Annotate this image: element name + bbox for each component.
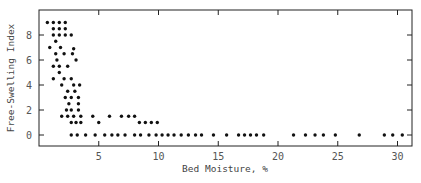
x-axis-label: Bed Moisture, % <box>182 163 268 174</box>
data-point <box>138 121 141 124</box>
data-point <box>79 115 82 118</box>
data-point <box>358 133 361 136</box>
data-point <box>46 21 49 24</box>
data-point <box>58 65 61 68</box>
y-tick-label: 4 <box>26 80 32 91</box>
data-point <box>66 65 69 68</box>
data-point <box>66 90 69 93</box>
data-point <box>65 108 68 111</box>
data-point <box>84 133 87 136</box>
data-points <box>46 21 404 137</box>
plot-frame <box>39 10 412 146</box>
data-point <box>194 133 197 136</box>
data-point <box>58 33 61 36</box>
data-point <box>154 133 157 136</box>
data-point <box>62 52 65 55</box>
data-point <box>150 121 153 124</box>
data-point <box>58 21 61 24</box>
data-point <box>66 115 69 118</box>
data-point <box>58 27 61 30</box>
data-point <box>78 83 81 86</box>
data-point <box>54 40 57 43</box>
data-point <box>334 133 337 136</box>
y-tick-label: 6 <box>26 55 32 66</box>
data-point <box>64 96 67 99</box>
data-point <box>304 133 307 136</box>
data-point <box>64 27 67 30</box>
data-point <box>70 77 73 80</box>
data-point <box>67 102 70 105</box>
data-point <box>187 133 190 136</box>
data-point <box>180 133 183 136</box>
x-tick-label: 10 <box>152 151 164 162</box>
data-point <box>120 115 123 118</box>
data-point <box>48 46 51 49</box>
data-point <box>62 77 65 80</box>
data-point <box>103 133 106 136</box>
data-point <box>313 133 316 136</box>
data-point <box>64 33 67 36</box>
data-point <box>133 115 136 118</box>
data-point <box>77 102 80 105</box>
data-point <box>108 115 111 118</box>
data-point <box>243 133 246 136</box>
data-point <box>72 47 75 50</box>
data-point <box>74 121 77 124</box>
x-axis-ticks: 51015202530 <box>96 10 404 162</box>
data-point <box>123 133 126 136</box>
data-point <box>383 133 386 136</box>
data-point <box>77 96 80 99</box>
data-point <box>58 71 61 74</box>
data-point <box>262 133 265 136</box>
data-point <box>200 133 203 136</box>
data-point <box>70 96 73 99</box>
data-point <box>237 133 240 136</box>
data-point <box>79 121 82 124</box>
data-point <box>160 133 163 136</box>
data-point <box>212 133 215 136</box>
data-point <box>172 133 175 136</box>
data-point <box>116 133 119 136</box>
data-point <box>60 83 63 86</box>
data-point <box>166 133 169 136</box>
x-tick-label: 20 <box>272 151 284 162</box>
x-tick-label: 5 <box>96 151 102 162</box>
data-point <box>110 133 113 136</box>
data-point <box>70 33 73 36</box>
data-point <box>76 133 79 136</box>
data-point <box>70 121 73 124</box>
x-tick-label: 25 <box>332 151 344 162</box>
data-point <box>59 46 62 49</box>
y-tick-label: 0 <box>26 130 32 141</box>
data-point <box>52 27 55 30</box>
data-point <box>93 133 96 136</box>
data-point <box>156 121 159 124</box>
y-tick-label: 8 <box>26 30 32 41</box>
data-point <box>401 133 404 136</box>
data-point <box>73 90 76 93</box>
data-point <box>292 133 295 136</box>
data-point <box>249 133 252 136</box>
data-point <box>139 133 142 136</box>
data-point <box>133 133 136 136</box>
data-point <box>77 108 80 111</box>
y-axis-label: Free-Swelling Index <box>5 23 16 132</box>
data-point <box>52 21 55 24</box>
data-point <box>71 52 74 55</box>
data-point <box>72 115 75 118</box>
data-point <box>144 121 147 124</box>
x-tick-label: 15 <box>212 151 224 162</box>
data-point <box>322 133 325 136</box>
y-tick-label: 2 <box>26 105 32 116</box>
data-point <box>74 58 77 61</box>
x-tick-label: 30 <box>391 151 403 162</box>
data-point <box>52 33 55 36</box>
data-point <box>70 108 73 111</box>
data-point <box>54 52 57 55</box>
data-point <box>225 133 228 136</box>
data-point <box>391 133 394 136</box>
data-point <box>60 115 63 118</box>
data-point <box>255 133 258 136</box>
data-point <box>97 121 100 124</box>
scatter-chart: 51015202530 02468 Bed Moisture, % Free-S… <box>0 0 421 183</box>
